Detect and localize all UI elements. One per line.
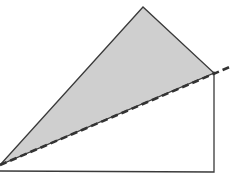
diagram-canvas xyxy=(0,0,249,186)
vertex-point xyxy=(212,71,215,74)
geometry-figure xyxy=(0,0,249,186)
